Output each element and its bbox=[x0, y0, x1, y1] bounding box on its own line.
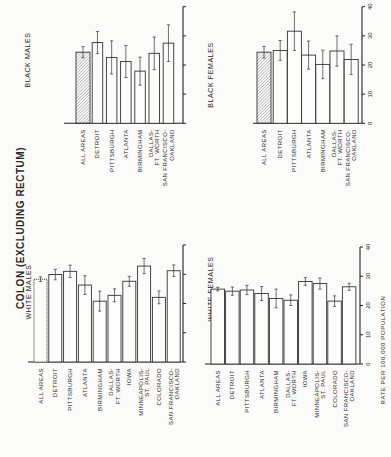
chart-page: COLON (EXCLUDING RECTUM) RATE PER 100,00… bbox=[0, 0, 391, 457]
category-label: PITTSBURGH bbox=[291, 129, 297, 172]
bar bbox=[49, 275, 62, 362]
category-label: BIRMINGHAM bbox=[273, 370, 279, 413]
tick-label: 0 bbox=[365, 362, 371, 366]
bar bbox=[342, 287, 356, 364]
category-label: MINNEAPOLIS- bbox=[138, 368, 144, 416]
bar bbox=[64, 271, 77, 362]
tick-label: 10 bbox=[367, 90, 373, 97]
category-label: FT. WORTH bbox=[337, 129, 343, 165]
tick-label: 40 bbox=[365, 243, 371, 250]
figure: COLON (EXCLUDING RECTUM) RATE PER 100,00… bbox=[0, 0, 391, 457]
category-label: COLORADO bbox=[332, 370, 338, 408]
bar bbox=[92, 43, 103, 124]
category-label: ALL AREAS bbox=[215, 370, 221, 406]
category-label: OAKLAND bbox=[174, 368, 180, 400]
category-label: FT. WORTH bbox=[115, 368, 121, 404]
bar bbox=[284, 300, 298, 364]
chart-black-males: BLACK MALESALL AREASDETROITPITTSBURGHATL… bbox=[24, 7, 186, 187]
category-label: ST. PAUL bbox=[320, 370, 326, 399]
chart-title: WHITE MALES bbox=[25, 265, 32, 320]
tick-label: 20 bbox=[365, 302, 371, 309]
category-label: ATLANTA bbox=[123, 129, 129, 158]
bar bbox=[240, 290, 254, 364]
bar bbox=[167, 271, 180, 362]
category-label: SAN FRANCISCO- bbox=[162, 129, 168, 186]
category-label: DETROIT bbox=[277, 129, 283, 158]
bar bbox=[76, 52, 90, 123]
tick-label: 30 bbox=[367, 32, 373, 39]
bar bbox=[211, 289, 225, 364]
bar bbox=[269, 298, 283, 364]
category-label: BIRMINGHAM bbox=[97, 368, 103, 411]
chart-title: BLACK FEMALES bbox=[207, 42, 214, 107]
category-label: ALL AREAS bbox=[80, 129, 86, 165]
axis-label: RATE PER 100,000 POPULATION bbox=[380, 295, 386, 404]
category-label: DETROIT bbox=[94, 129, 100, 158]
category-label: SAN FRANCISCO- bbox=[345, 129, 351, 186]
tick-label: 40 bbox=[367, 3, 373, 10]
tick-label: 10 bbox=[365, 331, 371, 338]
bar bbox=[299, 282, 313, 364]
bar bbox=[152, 297, 165, 362]
category-label: PITTSBURGH bbox=[109, 129, 115, 172]
category-label: SAN FRANCISCO- bbox=[168, 368, 174, 425]
charts-group: BLACK MALESALL AREASDETROITPITTSBURGHATL… bbox=[24, 3, 373, 427]
category-label: OAKLAND bbox=[169, 129, 175, 161]
category-label: DALLAS- bbox=[148, 129, 154, 157]
category-label: FT. WORTH bbox=[291, 370, 297, 406]
category-label: SAN FRANCISCO- bbox=[343, 370, 349, 427]
category-label: ALL AREAS bbox=[261, 129, 267, 165]
bar bbox=[257, 52, 271, 123]
bar bbox=[273, 50, 287, 123]
category-label: PITTSBURGH bbox=[244, 370, 250, 413]
category-label: BIRMINGHAM bbox=[320, 129, 326, 172]
bar bbox=[78, 285, 91, 362]
category-label: COLORADO bbox=[156, 368, 162, 406]
category-label: ATLANTA bbox=[306, 129, 312, 158]
category-label: BIRMINGHAM bbox=[137, 129, 143, 172]
category-label: MINNEAPOLIS- bbox=[314, 370, 320, 418]
category-label: DALLAS- bbox=[285, 370, 291, 398]
bar bbox=[255, 294, 268, 364]
bar bbox=[138, 266, 151, 362]
category-label: DETROIT bbox=[229, 370, 235, 399]
category-label: ATLANTA bbox=[259, 370, 265, 399]
category-label: OAKLAND bbox=[351, 129, 357, 161]
bar bbox=[313, 284, 327, 364]
tick-label: 30 bbox=[365, 272, 371, 279]
tick-label: 20 bbox=[367, 61, 373, 68]
category-label: DALLAS- bbox=[108, 368, 114, 396]
category-label: DALLAS- bbox=[331, 129, 337, 157]
category-label: OAKLAND bbox=[349, 370, 355, 402]
chart-title: BLACK MALES bbox=[24, 32, 31, 87]
chart-black-females: BLACK FEMALES010203040ALL AREASDETROITPI… bbox=[207, 3, 373, 187]
bar bbox=[108, 295, 121, 362]
bar bbox=[34, 279, 47, 362]
category-label: FT. WORTH bbox=[154, 129, 160, 165]
category-label: IOWA bbox=[126, 368, 132, 385]
category-label: ST. PAUL bbox=[144, 368, 150, 397]
category-label: PITTSBURGH bbox=[67, 368, 73, 411]
bar bbox=[226, 291, 240, 364]
tick-label: 0 bbox=[367, 121, 373, 125]
chart-white-females: WHITE FEMALES010203040ALL AREASDETROITPI… bbox=[205, 243, 371, 427]
bar bbox=[123, 281, 136, 362]
category-label: ALL AREAS bbox=[38, 368, 44, 404]
bar bbox=[328, 301, 342, 364]
category-label: ATLANTA bbox=[82, 368, 88, 397]
category-label: IOWA bbox=[302, 370, 308, 387]
chart-white-males: WHITE MALESALL AREASDETROITPITTSBURGHATL… bbox=[25, 245, 186, 425]
category-label: DETROIT bbox=[52, 368, 58, 397]
